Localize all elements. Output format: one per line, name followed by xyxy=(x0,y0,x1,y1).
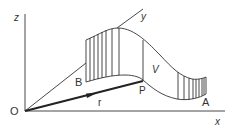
surface xyxy=(86,28,206,100)
vector-diagram: z y x O B P A r V xyxy=(0,0,234,131)
axes xyxy=(25,9,225,111)
curve-BA xyxy=(86,75,206,100)
point-A-label: A xyxy=(202,96,210,108)
y-axis-label: y xyxy=(140,11,147,22)
diagram-canvas: z y x O B P A r V xyxy=(0,0,234,131)
surface-V-label: V xyxy=(152,64,160,75)
point-B-label: B xyxy=(75,76,82,88)
z-axis-label: z xyxy=(13,12,19,23)
surface-top-curve xyxy=(86,28,206,79)
y-axis-upper xyxy=(117,9,143,28)
point-P-label: P xyxy=(139,85,146,96)
x-axis-label: x xyxy=(214,116,221,127)
position-vector-r xyxy=(25,81,143,111)
arrow-head-icon xyxy=(86,93,97,98)
origin-label: O xyxy=(10,105,19,117)
vector-r-label: r xyxy=(98,97,102,108)
